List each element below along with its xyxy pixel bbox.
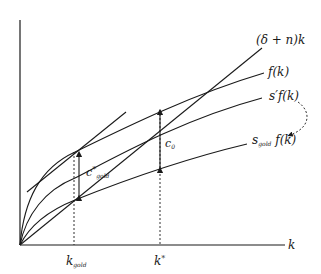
k-star-sup: * (161, 254, 165, 263)
label-savings-prime: s′f(k) (269, 90, 299, 102)
shift-arrow (290, 102, 307, 135)
label-savings-gold: sgold f(k) (252, 134, 296, 147)
savings-gold-sub: gold (258, 140, 271, 147)
label-production: f(k) (268, 66, 289, 78)
label-c-0: c0 (165, 138, 175, 150)
tangent-line (27, 112, 126, 192)
depreciation-line (20, 48, 262, 245)
x-axis-label: k (288, 239, 295, 251)
savings-gold-curve (20, 144, 247, 245)
tick-k-star: k* (154, 255, 165, 267)
label-c-gold: c*gold (86, 166, 109, 179)
k-gold-sub: gold (73, 261, 86, 268)
savings-gold-tail: f(k) (271, 133, 296, 147)
c-0-sub: 0 (171, 143, 175, 150)
label-depreciation: (δ + n)k (256, 34, 305, 46)
production-curve (20, 73, 264, 245)
tick-k-gold: kgold (66, 255, 87, 268)
c-gold-sub: gold (96, 172, 109, 179)
